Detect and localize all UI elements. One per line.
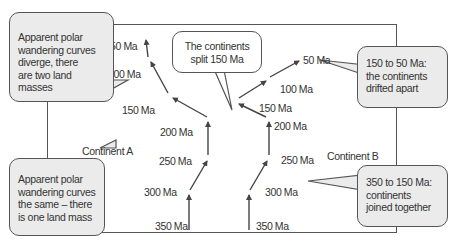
age-label-b-250: 250 Ma <box>281 154 314 166</box>
callout-line: Apparent polar <box>18 173 96 186</box>
callout-line: 150 to 50 Ma: <box>366 57 439 70</box>
callout-line: wandering curves <box>18 44 105 57</box>
callout-line: are two land masses <box>18 69 105 94</box>
callout-joined: 350 to 150 Ma: continents joined togethe… <box>357 165 448 227</box>
callout-line: The continents <box>179 40 255 53</box>
continent-b-label: Continent B <box>327 150 379 162</box>
callout-line: drifted apart <box>366 82 439 95</box>
callout-line: is one land mass <box>18 211 96 224</box>
callout-line: split 150 Ma <box>179 53 255 66</box>
age-label-b-350: 350 Ma <box>256 220 289 232</box>
callout-same: Apparent polar wandering curves the same… <box>9 158 105 236</box>
age-label-b-100: 100 Ma <box>280 83 313 95</box>
callout-line: the same – there <box>18 198 96 211</box>
age-label-a-300: 300 Ma <box>144 186 177 198</box>
age-label-a-50: 50 Ma <box>110 40 137 52</box>
callout-split: The continents split 150 Ma <box>172 31 262 73</box>
callout-diverge: Apparent polar wandering curves diverge,… <box>9 12 114 102</box>
callout-line: the continents <box>366 70 439 83</box>
continent-a-label: Continent A <box>82 145 133 157</box>
age-label-b-150: 150 Ma <box>259 102 292 114</box>
age-label-b-200: 200 Ma <box>274 120 307 132</box>
callout-line: wandering curves <box>18 186 96 199</box>
age-label-a-200: 200 Ma <box>160 126 193 138</box>
age-label-b-300: 300 Ma <box>265 186 298 198</box>
callout-line: Apparent polar <box>18 31 105 44</box>
callout-line: joined together <box>366 201 439 214</box>
callout-line: continents <box>366 189 439 202</box>
age-label-b-50: 50 Ma <box>303 54 330 66</box>
age-label-a-250: 250 Ma <box>159 155 192 167</box>
callout-line: diverge, there <box>18 56 105 69</box>
callout-drifted: 150 to 50 Ma: the continents drifted apa… <box>357 46 448 108</box>
age-label-a-350: 350 Ma <box>155 220 188 232</box>
callout-line: 350 to 150 Ma: <box>366 176 439 189</box>
age-label-a-150: 150 Ma <box>122 104 155 116</box>
